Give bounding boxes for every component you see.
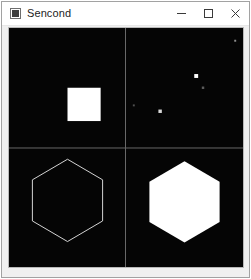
quadrant-top-right: [133, 40, 236, 113]
minimize-icon: [176, 8, 187, 19]
close-button[interactable]: [222, 2, 249, 25]
canvas-point: [194, 74, 198, 78]
window-title: Sencond: [27, 2, 71, 25]
maximize-icon: [203, 8, 214, 19]
canvas-point: [133, 104, 135, 106]
canvas-area: [2, 26, 249, 277]
title-bar[interactable]: Sencond: [2, 2, 249, 26]
filled-square: [68, 88, 101, 121]
app-icon: [10, 8, 21, 19]
app-window: Sencond: [1, 1, 250, 278]
hexagon-outline: [32, 159, 102, 241]
close-icon: [230, 8, 241, 19]
quadrant-bottom-left: [32, 159, 102, 241]
quadrant-dividers: [9, 28, 243, 267]
canvas-point: [202, 87, 204, 89]
drawing-canvas[interactable]: [8, 27, 244, 268]
canvas-point: [234, 40, 236, 42]
canvas-svg: [9, 28, 243, 267]
quadrant-top-left: [68, 88, 101, 121]
minimize-button[interactable]: [168, 2, 195, 25]
hexagon-filled: [149, 161, 219, 242]
canvas-point: [158, 110, 161, 113]
quadrant-bottom-right: [149, 161, 219, 242]
maximize-button[interactable]: [195, 2, 222, 25]
window-controls: [168, 2, 249, 25]
